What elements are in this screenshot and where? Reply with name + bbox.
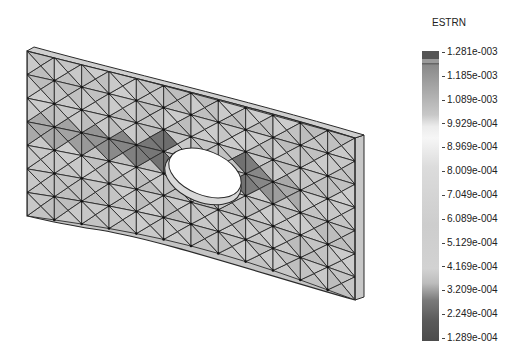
legend-label: 5.129e-004 — [442, 237, 498, 249]
mesh-node — [272, 158, 275, 161]
mesh-node — [53, 126, 56, 129]
mesh-node — [80, 109, 83, 112]
mesh-node — [108, 137, 111, 140]
legend-value: 8.009e-004 — [447, 165, 498, 176]
mesh-node — [299, 144, 302, 147]
legend-label: 1.281e-003 — [442, 46, 498, 58]
plate-side-face — [355, 135, 364, 300]
mesh-node — [244, 150, 247, 153]
mesh-node — [326, 220, 329, 223]
legend-tick — [442, 243, 445, 244]
legend-label: 9.929e-004 — [442, 118, 498, 130]
mesh-node — [299, 256, 302, 259]
legend-value: 5.129e-004 — [447, 237, 498, 248]
mesh-node — [272, 203, 275, 206]
mesh-node — [326, 175, 329, 178]
mesh-node — [162, 216, 165, 219]
mesh-node — [108, 92, 111, 95]
mesh-node — [80, 154, 83, 157]
mesh-node — [135, 188, 138, 191]
mesh-node — [135, 232, 138, 235]
legend-value: 7.049e-004 — [447, 189, 498, 200]
mesh-node — [272, 269, 275, 272]
legend-value: 9.929e-004 — [447, 118, 498, 129]
mesh-node — [162, 172, 165, 175]
mesh-node — [244, 238, 247, 241]
mesh-node — [326, 266, 329, 269]
legend-value: 8.969e-004 — [447, 141, 498, 152]
mesh-node — [190, 201, 193, 204]
mesh-node — [272, 181, 275, 184]
legend-value: 3.209e-004 — [447, 284, 498, 295]
mesh-node — [244, 194, 247, 197]
legend-tick — [442, 76, 445, 77]
mesh-node — [108, 115, 111, 118]
mesh-node — [190, 114, 193, 117]
mesh-node — [299, 189, 302, 192]
mesh-node — [162, 194, 165, 197]
mesh-node — [244, 216, 247, 219]
mesh-node — [326, 243, 329, 246]
mesh-node — [162, 106, 165, 109]
legend-value: 1.289e-004 — [447, 332, 498, 343]
mesh-node — [135, 210, 138, 213]
mesh-node — [53, 149, 56, 152]
legend-tick — [442, 266, 445, 267]
legend-value: 1.089e-003 — [447, 94, 498, 105]
mesh-node — [53, 219, 56, 222]
mesh-node — [108, 205, 111, 208]
legend-tick — [442, 171, 445, 172]
mesh-node — [108, 160, 111, 163]
mesh-node — [326, 197, 329, 200]
mesh-node — [108, 227, 111, 230]
mesh-node — [217, 143, 220, 146]
mesh-node — [217, 121, 220, 124]
legend-label: 1.185e-003 — [442, 70, 498, 82]
mesh-node — [244, 129, 247, 132]
legend-colorbar — [422, 51, 439, 341]
legend-tick — [442, 147, 445, 148]
legend-label: 3.209e-004 — [442, 284, 498, 296]
mesh-node — [217, 230, 220, 233]
legend-value: 1.281e-003 — [447, 46, 498, 57]
mesh-node — [80, 177, 83, 180]
legend-label: 4.169e-004 — [442, 261, 498, 273]
mesh-node — [244, 260, 247, 263]
legend-tick — [442, 219, 445, 220]
legend-tick — [442, 195, 445, 196]
mesh-node — [299, 166, 302, 169]
mesh-node — [190, 135, 193, 138]
mesh-node — [272, 136, 275, 139]
legend-tick — [442, 338, 445, 339]
mesh-node — [53, 79, 56, 82]
mesh-plate[interactable] — [0, 0, 517, 362]
legend-value: 2.249e-004 — [447, 308, 498, 319]
legend-tick — [442, 52, 445, 53]
legend-tick — [442, 290, 445, 291]
mesh-node — [80, 200, 83, 203]
legend-label: 1.089e-003 — [442, 94, 498, 106]
legend-label: 1.289e-004 — [442, 332, 498, 344]
mesh-node — [162, 238, 165, 241]
model-viewport[interactable]: ESTRN 1.281e-0031.185e-0031.089e-0039.92… — [0, 0, 517, 362]
mesh-node — [326, 289, 329, 292]
legend-tick — [442, 100, 445, 101]
mesh-node — [190, 245, 193, 248]
legend-label: 8.009e-004 — [442, 165, 498, 177]
mesh-node — [299, 234, 302, 237]
mesh-node — [135, 121, 138, 124]
mesh-node — [217, 208, 220, 211]
mesh-node — [135, 166, 138, 169]
mesh-node — [53, 195, 56, 198]
legend-value: 6.089e-004 — [447, 213, 498, 224]
mesh-node — [80, 131, 83, 134]
legend-label: 2.249e-004 — [442, 308, 498, 320]
mesh-node — [217, 252, 220, 255]
mesh-node — [244, 172, 247, 175]
mesh-node — [299, 211, 302, 214]
mesh-node — [53, 103, 56, 106]
legend-title: ESTRN — [432, 17, 466, 28]
legend-label: 7.049e-004 — [442, 189, 498, 201]
mesh-node — [135, 144, 138, 147]
mesh-node — [108, 182, 111, 185]
